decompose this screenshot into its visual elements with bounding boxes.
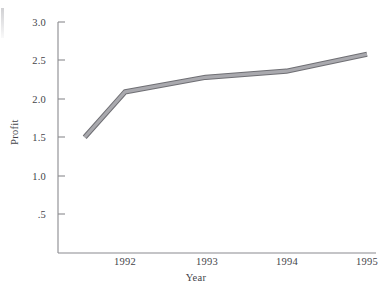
y-tick-marks [58,22,65,214]
ytick-label-2-5: 2.5 [20,55,46,66]
profit-line-chart: 3.0 2.5 2.0 1.5 1.0 .5 1992 1993 1994 19… [0,0,392,299]
xtick-label-1994: 1994 [276,256,298,267]
ytick-label-2-0: 2.0 [20,94,46,105]
xtick-label-1995: 1995 [356,256,378,267]
xtick-label-1993: 1993 [196,256,218,267]
plot-area [0,0,392,299]
ytick-label-3-0: 3.0 [20,17,46,28]
ytick-label-1-5: 1.5 [20,132,46,143]
y-axis-title: Profit [9,119,20,145]
ytick-label-1-0: 1.0 [20,171,46,182]
x-axis-title: Year [0,272,392,283]
profit-series-line [85,54,367,137]
xtick-label-1992: 1992 [114,256,136,267]
ytick-label-point-5: .5 [20,209,46,220]
